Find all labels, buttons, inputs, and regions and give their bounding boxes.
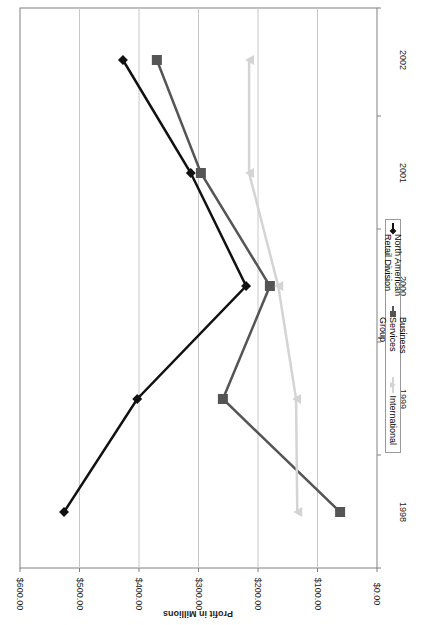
data-point	[335, 507, 345, 517]
data-point	[196, 168, 206, 178]
data-point	[218, 394, 228, 404]
triangle-marker-icon	[389, 377, 397, 393]
y-tick-label: $500.00	[74, 564, 86, 624]
legend-label: North American Retail Division	[383, 234, 403, 302]
square-marker-icon	[389, 306, 397, 315]
data-point	[265, 281, 275, 291]
x-tick-label: 1998	[397, 482, 409, 542]
legend-item-international: International	[388, 377, 398, 445]
y-tick-label: $0.00	[371, 564, 383, 624]
data-point	[152, 55, 162, 65]
legend-item-north-american: North American Retail Division	[383, 223, 403, 302]
x-tick-label: 2001	[397, 143, 409, 203]
x-tick-label: 2002	[397, 30, 409, 90]
plot-area	[20, 8, 381, 572]
y-axis-title: Profit in Millions	[138, 608, 258, 620]
legend-label: Business Services Group	[378, 317, 408, 373]
legend-item-business-services: Business Services Group	[378, 306, 408, 373]
y-tick-label: $100.00	[312, 564, 324, 624]
legend-label: International	[388, 395, 398, 445]
legend: North American Retail Division Business …	[385, 219, 401, 453]
line-chart	[0, 0, 421, 625]
diamond-marker-icon	[389, 223, 397, 232]
y-tick-label: $600.00	[14, 564, 26, 624]
